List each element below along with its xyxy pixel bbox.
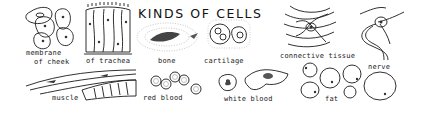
cheek-cells-drawing: [26, 7, 73, 48]
label-red-blood: red blood: [143, 94, 183, 102]
title: KINDS OF CELLS: [138, 6, 263, 21]
label-fat: fat: [325, 95, 338, 103]
nerve-drawing: [360, 7, 404, 60]
trachea-cells-drawing: [84, 2, 132, 54]
label-cartilage: cartilage: [204, 57, 244, 65]
muscle-drawing: [26, 70, 136, 100]
label-nerve: nerve: [368, 63, 390, 71]
bone-drawing: [137, 23, 198, 51]
red-blood-drawing: [151, 72, 201, 94]
label-cheek-line2: of cheek: [34, 58, 69, 66]
label-cheek-line1: membrane: [26, 49, 61, 57]
cartilage-drawing: [208, 20, 250, 48]
connective-tissue-drawing: [284, 6, 336, 47]
label-muscle: muscle: [52, 94, 79, 102]
white-blood-drawing: [219, 70, 288, 91]
label-white-blood: white blood: [224, 95, 273, 103]
label-trachea: of trachea: [86, 57, 130, 65]
label-connective-tissue: connective tissue: [280, 52, 355, 60]
label-bone: bone: [158, 57, 176, 65]
kinds-of-cells-illustration: KINDS OF CELLS membrane of cheek of trac…: [0, 0, 429, 113]
